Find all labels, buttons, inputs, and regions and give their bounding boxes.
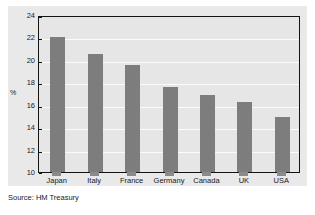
x-axis-tickmark <box>52 172 61 176</box>
y-axis-tick-label: 12 <box>27 147 35 155</box>
chart-figure: % 2422201816141210 JapanItalyFranceGerma… <box>0 0 315 215</box>
x-axis-tickmark <box>127 172 136 176</box>
y-axis-tick-label: 10 <box>27 169 35 177</box>
y-axis-tick-labels: 2422201816141210 <box>16 16 37 173</box>
y-axis-tick-label: 24 <box>27 12 35 20</box>
x-axis-category-label: Italy <box>87 176 101 186</box>
x-axis-tickmark <box>165 172 174 176</box>
y-axis-tick-label: 20 <box>27 57 35 65</box>
x-axis-category-label: Canada <box>193 176 219 186</box>
bar <box>275 117 290 172</box>
bar <box>88 54 103 172</box>
source-note: Source: HM Treasury <box>8 193 79 203</box>
bar <box>237 102 252 172</box>
x-axis-tickmark <box>277 172 286 176</box>
y-axis-tick-label: 18 <box>27 79 35 87</box>
x-axis-tickmark <box>90 172 99 176</box>
x-axis-category-label: Germany <box>154 176 185 186</box>
x-axis-tickmark <box>239 172 248 176</box>
bar <box>125 65 140 172</box>
bar <box>50 37 65 172</box>
x-axis-category-label: Japan <box>46 176 66 186</box>
x-axis-category-label: France <box>120 176 143 186</box>
bar <box>200 95 215 172</box>
y-axis-tick-label: 16 <box>27 102 35 110</box>
y-axis-tickmark <box>39 173 42 174</box>
y-axis-tick-label: 22 <box>27 34 35 42</box>
y-axis-tick-label: 14 <box>27 124 35 132</box>
x-axis-category-label: UK <box>239 176 249 186</box>
x-axis-tickmark <box>202 172 211 176</box>
plot-area <box>38 16 300 173</box>
x-axis-category-label: USA <box>274 176 289 186</box>
bars-layer <box>39 17 299 172</box>
x-axis-category-labels: JapanItalyFranceGermanyCanadaUKUSA <box>38 176 300 187</box>
bar <box>163 87 178 172</box>
